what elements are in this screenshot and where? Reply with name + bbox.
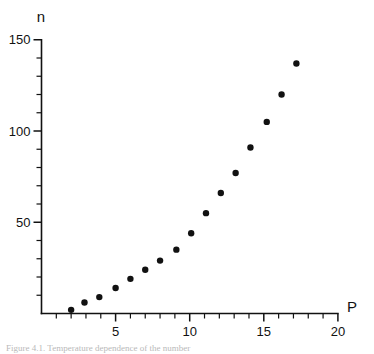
data-point xyxy=(81,299,87,305)
figure-container: 501001505101520 nP Figure 4.1. Temperatu… xyxy=(0,0,374,354)
scatter-plot: 501001505101520 nP xyxy=(0,0,374,354)
data-point xyxy=(218,190,224,196)
y-axis-title: n xyxy=(37,8,45,25)
axis-ticks xyxy=(34,40,338,322)
x-tick-label: 15 xyxy=(257,324,271,339)
data-point xyxy=(142,267,148,273)
data-point xyxy=(112,285,118,291)
x-tick-label: 5 xyxy=(112,324,119,339)
data-point xyxy=(203,210,209,216)
data-point xyxy=(68,307,74,313)
data-point xyxy=(278,91,284,97)
x-tick-label: 10 xyxy=(182,324,196,339)
axes xyxy=(42,40,338,314)
data-point xyxy=(96,294,102,300)
data-point xyxy=(293,60,299,66)
figure-caption: Figure 4.1. Temperature dependence of th… xyxy=(6,343,286,354)
x-tick-label: 20 xyxy=(331,324,345,339)
y-tick-label: 50 xyxy=(16,215,30,230)
data-points xyxy=(68,60,300,313)
axis-tick-labels: 501001505101520 xyxy=(9,32,345,338)
data-point xyxy=(173,246,179,252)
data-point xyxy=(264,119,270,125)
data-point xyxy=(232,170,238,176)
axis-titles: nP xyxy=(37,8,357,315)
data-point xyxy=(188,230,194,236)
y-tick-label: 150 xyxy=(9,32,31,47)
x-axis-title: P xyxy=(347,298,357,315)
data-point xyxy=(157,257,163,263)
data-point xyxy=(247,144,253,150)
data-point xyxy=(127,276,133,282)
y-tick-label: 100 xyxy=(9,124,31,139)
